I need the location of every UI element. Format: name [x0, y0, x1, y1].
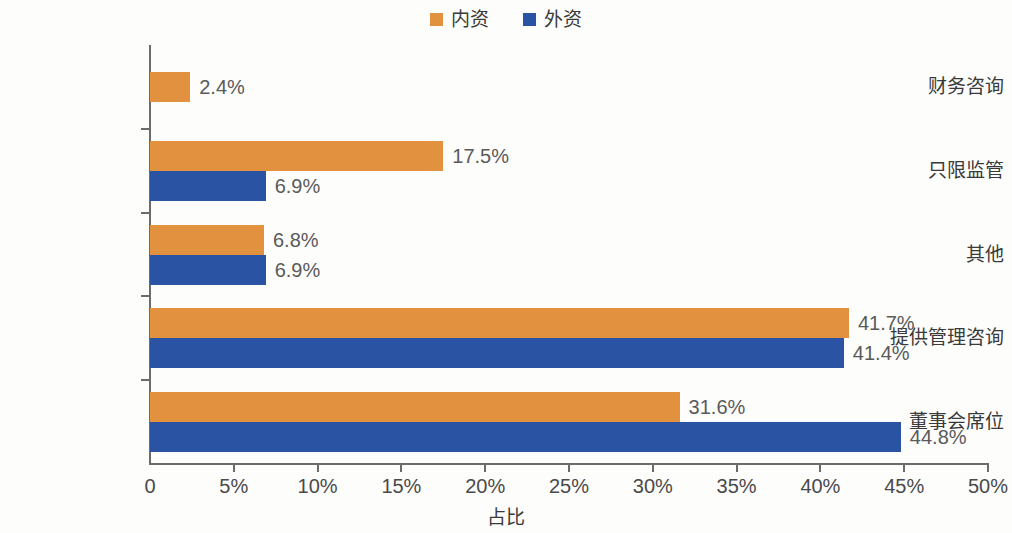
chart-legend: 内资外资: [0, 10, 1012, 29]
bar-inner[interactable]: [150, 72, 190, 102]
legend-swatch-icon: [523, 13, 536, 26]
x-axis-tick: [903, 463, 905, 472]
bar-value-label: 31.6%: [689, 397, 746, 417]
legend-swatch-icon: [430, 13, 443, 26]
x-axis-tick-label: 40%: [800, 476, 840, 496]
bar-inner[interactable]: [150, 308, 849, 338]
bar-value-label: 17.5%: [452, 146, 509, 166]
bar-value-label: 41.4%: [853, 343, 910, 363]
bar-chart: 内资外资 占比 05%10%15%20%25%30%35%40%45%50%财务…: [0, 0, 1012, 533]
x-axis-tick: [987, 463, 989, 472]
y-axis-category-label: 财务咨询: [862, 77, 1012, 96]
legend-item[interactable]: 外资: [523, 10, 582, 29]
x-axis-tick-label: 45%: [884, 476, 924, 496]
bar-foreign[interactable]: [150, 422, 901, 452]
bar-inner[interactable]: [150, 141, 443, 171]
legend-item[interactable]: 内资: [430, 10, 489, 29]
y-axis-tick: [141, 295, 150, 297]
x-axis-tick: [819, 463, 821, 472]
x-axis-tick: [568, 463, 570, 472]
y-axis-category-label: 其他: [862, 245, 1012, 264]
x-axis-tick: [317, 463, 319, 472]
bar-value-label: 2.4%: [199, 77, 245, 97]
x-axis-tick-label: 50%: [968, 476, 1008, 496]
bar-inner[interactable]: [150, 225, 264, 255]
bar-value-label: 41.7%: [858, 313, 915, 333]
x-axis-tick-label: 25%: [549, 476, 589, 496]
bar-value-label: 6.9%: [275, 260, 321, 280]
bar-inner[interactable]: [150, 392, 680, 422]
x-axis-title: 占比: [0, 508, 1012, 527]
legend-item-label: 外资: [544, 10, 582, 29]
bar-value-label: 44.8%: [910, 427, 967, 447]
bar-value-label: 6.8%: [273, 230, 319, 250]
x-axis-tick-label: 20%: [465, 476, 505, 496]
x-axis-tick-label: 35%: [717, 476, 757, 496]
x-axis-tick-label: 10%: [298, 476, 338, 496]
bar-foreign[interactable]: [150, 171, 266, 201]
y-axis-tick: [141, 128, 150, 130]
x-axis-tick-label: 0: [144, 476, 155, 496]
x-axis-tick-label: 5%: [219, 476, 248, 496]
y-axis-category-label: 只限监管: [862, 161, 1012, 180]
x-axis-tick: [233, 463, 235, 472]
y-axis-tick: [141, 212, 150, 214]
bar-foreign[interactable]: [150, 255, 266, 285]
x-axis-tick: [484, 463, 486, 472]
legend-item-label: 内资: [451, 10, 489, 29]
x-axis-tick: [736, 463, 738, 472]
x-axis-tick: [652, 463, 654, 472]
x-axis-tick-label: 30%: [633, 476, 673, 496]
x-axis-tick-label: 15%: [381, 476, 421, 496]
y-axis-tick: [141, 379, 150, 381]
x-axis-tick: [400, 463, 402, 472]
bar-foreign[interactable]: [150, 338, 844, 368]
bar-value-label: 6.9%: [275, 176, 321, 196]
